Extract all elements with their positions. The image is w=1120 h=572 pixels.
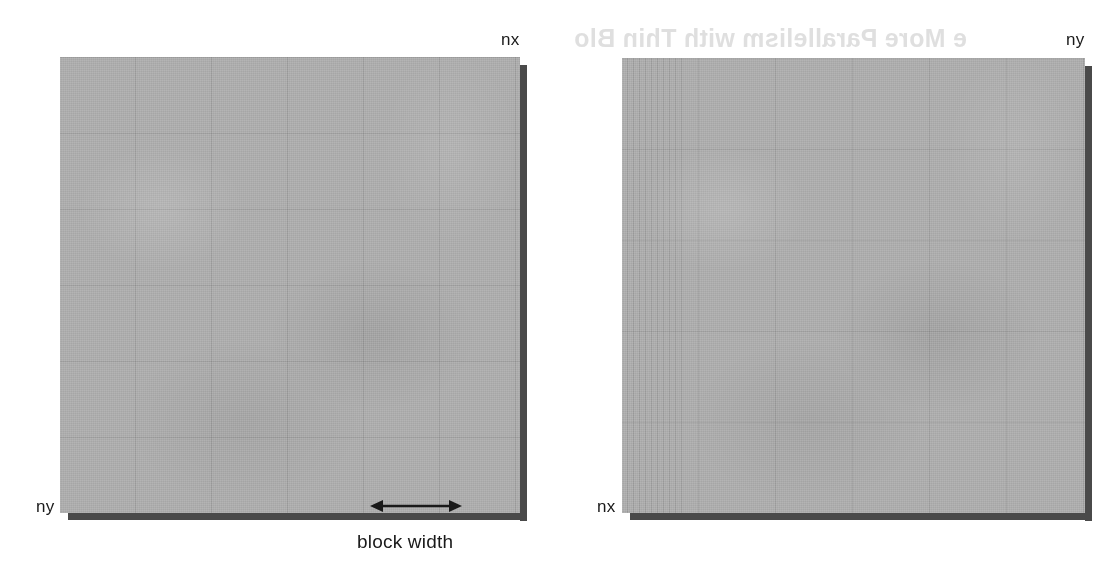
panel-shadow-bottom: [630, 513, 1092, 520]
panel-shadow-right: [520, 65, 527, 521]
panel-face: [622, 58, 1085, 513]
grid-lines-horizontal: [622, 58, 1085, 513]
label-nx-left-panel: nx: [501, 30, 519, 50]
panel-face: [60, 57, 520, 513]
paper-grain: [622, 58, 1085, 513]
paper-mottle: [622, 58, 1085, 513]
wide-blocks-panel: [60, 57, 520, 513]
bleed-through-heading: e More Parallelism with Thin Blo: [574, 24, 967, 53]
grid-lines-vertical: [622, 58, 1085, 513]
paper-grain: [60, 57, 520, 513]
panel-shadow-right: [1085, 66, 1092, 521]
thin-block-stripes: [622, 58, 684, 513]
grid-lines-horizontal: [60, 57, 520, 513]
block-width-arrow: [370, 495, 462, 517]
grid-lines-vertical: [60, 57, 520, 513]
paper-mottle: [60, 57, 520, 513]
thin-blocks-panel: [622, 58, 1085, 513]
label-ny-left-panel: ny: [36, 497, 54, 517]
caption-block-width: block width: [357, 531, 453, 553]
label-ny-right-panel: ny: [1066, 30, 1084, 50]
label-nx-right-panel: nx: [597, 497, 615, 517]
figure-canvas: e More Parallelism with Thin Blo nx ny b…: [0, 0, 1120, 572]
